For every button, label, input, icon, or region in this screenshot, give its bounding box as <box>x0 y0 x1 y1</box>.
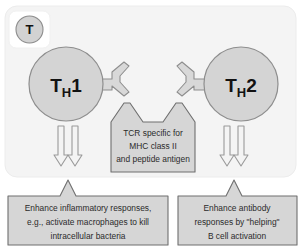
th2-outcome-line-3: B cell activation <box>208 231 267 241</box>
th1-outcome-line-2: e.g., activate macrophages to kill <box>27 217 149 227</box>
t-cell-badge-letter: T <box>26 22 34 37</box>
th1-th2-diagram: T TH1 TH2 TCR specific for MHC class II … <box>0 0 303 252</box>
th2-outcome-line-2: responses by "helping" <box>194 217 279 227</box>
th1-outcome-line-3: intracellular bacteria <box>51 231 126 241</box>
tcr-label-line-3: and peptide antigen <box>116 154 190 164</box>
th1-outcome-line-1: Enhance inflammatory responses, <box>25 203 152 213</box>
th2-outcome-line-1: Enhance antibody <box>203 203 271 213</box>
th1-cell <box>29 47 103 121</box>
tcr-label-line-2: MHC class II <box>129 141 176 151</box>
tcr-label-line-1: TCR specific for <box>123 128 183 138</box>
th2-cell <box>204 47 278 121</box>
